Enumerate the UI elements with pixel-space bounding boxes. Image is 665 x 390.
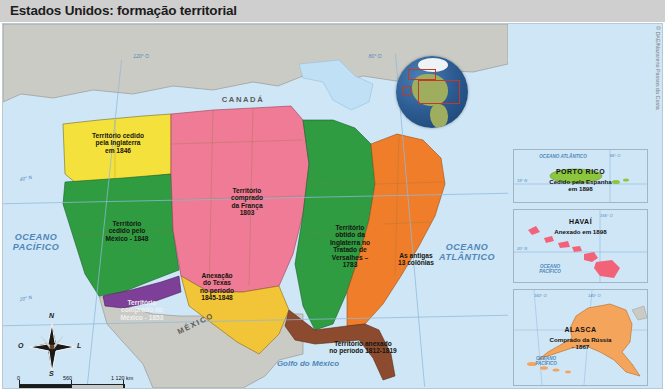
- inset-porto-rico-subtitle: Cedido pela Espanha em 1898: [514, 178, 647, 192]
- map-page: Estados Unidos: formação territorial: [0, 0, 665, 390]
- map-frame: 120° O 80° O 40° N 20° N CANADÁ MÉXICO O…: [2, 23, 663, 389]
- inset-havai: HAVAÍ Anexado em 1898 OCEANO PACÍFICO 15…: [513, 209, 648, 283]
- globe-highlight-alaska: [408, 69, 436, 80]
- compass-rose: N S L O: [17, 312, 87, 380]
- scale-bar: 0 560 1 120 km 1 : 56 000 000: [13, 376, 135, 388]
- credit-text: © DAE/Nazareno Passos da Costa: [655, 26, 661, 110]
- scale-label-mid: 560: [63, 375, 72, 381]
- compass-label-east: L: [77, 342, 81, 349]
- page-title: Estados Unidos: formação territorial: [10, 3, 237, 18]
- compass-label-north: N: [49, 312, 54, 319]
- credit-line: © DAE/Nazareno Passos da Costa: [652, 24, 664, 164]
- inset-havai-ocean-label: OCEANO PACÍFICO: [528, 264, 572, 275]
- scale-tick-mid: [71, 380, 72, 388]
- main-map: 120° O 80° O 40° N 20° N CANADÁ MÉXICO O…: [3, 24, 508, 388]
- scale-tick-max: [123, 380, 124, 388]
- inset-havai-grat-lon: 156° O: [600, 213, 613, 218]
- inset-alasca: ALASCA Comprado da Rússia - 1867 OCEANO …: [513, 289, 648, 386]
- inset-alasca-ocean-label: OCEANO PACÍFICO: [524, 356, 568, 367]
- title-bar: Estados Unidos: formação territorial: [0, 0, 665, 22]
- inset-alasca-title: ALASCA: [514, 326, 647, 333]
- inset-havai-grat-lat: 20° N: [517, 246, 527, 251]
- globe-highlight-usa: [418, 80, 460, 104]
- scale-label-max: 1 120 km: [111, 375, 133, 381]
- territory-mexican-cession-1848: [63, 174, 179, 296]
- inset-alasca-grat-lon-140: 140° O: [588, 293, 601, 298]
- scale-bar-graphic: [19, 384, 125, 388]
- inset-porto-rico-grat-lon: 66° O: [610, 153, 620, 158]
- inset-porto-rico: OCEANO ATLÂNTICO 66° O 18° N PORTO RICO …: [513, 149, 648, 203]
- inset-porto-rico-title: PORTO RICO: [514, 168, 647, 175]
- scale-label-0: 0: [17, 375, 20, 381]
- inset-alasca-grat-lon-160: 160° O: [534, 293, 547, 298]
- scale-tick-0: [19, 380, 20, 388]
- inset-porto-rico-ocean-label: OCEANO ATLÂNTICO: [520, 154, 606, 159]
- compass-label-west: O: [18, 342, 23, 349]
- globe-locator-icon: [396, 56, 468, 128]
- inset-alasca-subtitle: Comprado da Rússia - 1867: [514, 336, 647, 350]
- territory-oregon-1846: [63, 114, 171, 184]
- inset-havai-title: HAVAÍ: [514, 218, 647, 225]
- globe-highlight-havai: [402, 86, 411, 95]
- inset-havai-subtitle: Anexado em 1898: [514, 228, 647, 235]
- globe-south-america: [430, 104, 448, 128]
